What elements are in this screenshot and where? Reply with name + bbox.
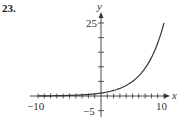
y-min-label: −5 — [83, 105, 95, 117]
y-axis-label: y — [96, 0, 102, 12]
exponential-graph: x y −10 10 25 −5 — [0, 0, 186, 119]
x-max-label: 10 — [156, 100, 168, 112]
x-axis-arrow-icon — [164, 94, 170, 99]
y-max-label: 25 — [86, 17, 98, 29]
x-min-label: −10 — [27, 100, 45, 112]
x-axis-label: x — [171, 89, 177, 101]
y-axis-arrow-icon — [99, 12, 104, 18]
